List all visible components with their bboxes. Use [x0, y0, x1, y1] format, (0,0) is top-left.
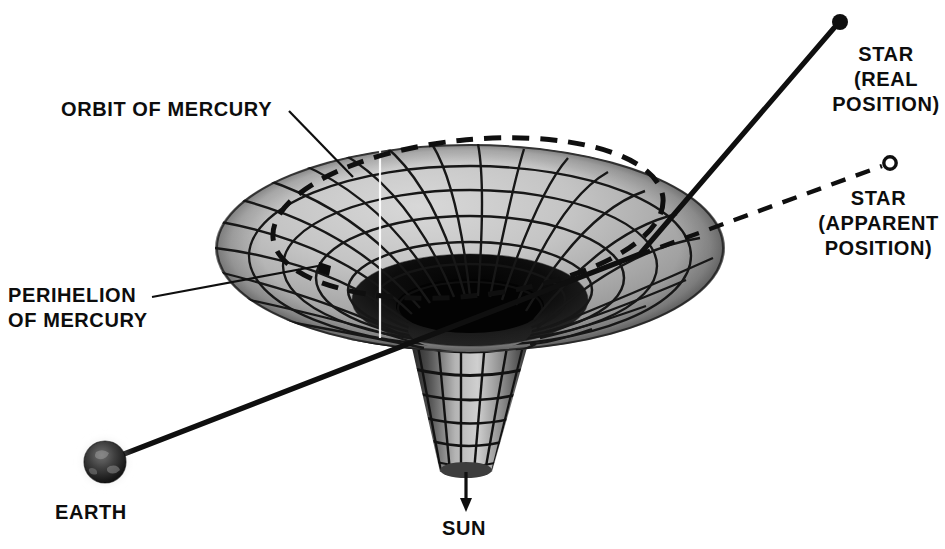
label-orbit-of-mercury: ORBIT OF MERCURY	[61, 97, 272, 122]
diagram-artwork	[0, 0, 945, 549]
label-star-real-position: STAR (REAL POSITION)	[830, 42, 942, 117]
label-perihelion-of-mercury: PERIHELION OF MERCURY	[8, 283, 148, 333]
label-earth: EARTH	[55, 500, 127, 525]
spacetime-curvature-figure: ORBIT OF MERCURY PERIHELION OF MERCURY E…	[0, 0, 945, 549]
paper-grain-overlay	[0, 0, 945, 549]
label-sun: SUN	[442, 516, 486, 541]
label-star-apparent-position: STAR (APPARENT POSITION)	[812, 186, 945, 261]
